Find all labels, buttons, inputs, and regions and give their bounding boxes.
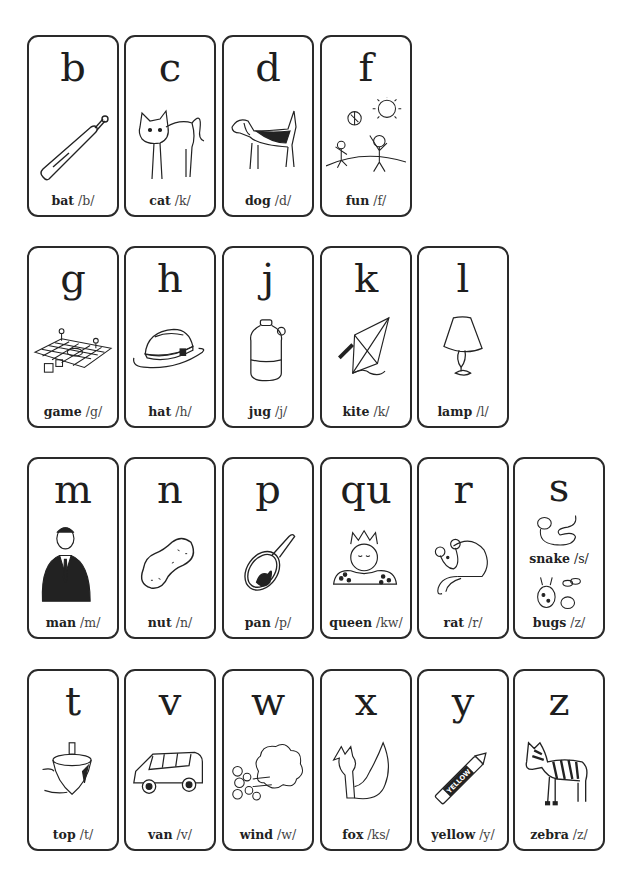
card-n[interactable]: n nut /n/ (124, 457, 216, 639)
card-letter: j (224, 252, 312, 304)
card-m[interactable]: m man /m/ (27, 457, 119, 639)
card-caption: kite /k/ (322, 404, 410, 419)
card-caption: nut /n/ (126, 615, 214, 630)
spinning-top-icon (33, 731, 113, 826)
card-j[interactable]: j jug /j/ (222, 246, 314, 428)
snake-icon (525, 513, 593, 551)
card-letter: h (126, 252, 214, 304)
card-t[interactable]: t top /t/ (27, 669, 119, 851)
card-f[interactable]: f fun /f/ (320, 35, 412, 217)
card-caption: dog /d/ (224, 193, 312, 208)
card-k[interactable]: k kite /k/ (320, 246, 412, 428)
card-z[interactable]: z zebra /z/ (513, 669, 605, 851)
card-y[interactable]: y YELLOW yellow /y/ (417, 669, 509, 851)
pan-icon (228, 519, 308, 614)
dog-icon (228, 97, 308, 192)
card-l[interactable]: l lamp /l/ (417, 246, 509, 428)
card-caption: man /m/ (29, 615, 117, 630)
card-letter: f (322, 41, 410, 93)
card-letter: g (29, 252, 117, 304)
card-v[interactable]: v van /v/ (124, 669, 216, 851)
card-caption: top /t/ (29, 827, 117, 842)
card-s[interactable]: s snake /s/ bugs /z/ (513, 457, 605, 639)
card-caption: cat /k/ (126, 193, 214, 208)
lamp-icon (423, 308, 503, 403)
card-d[interactable]: d dog /d/ (222, 35, 314, 217)
queen-icon (326, 519, 406, 614)
card-g[interactable]: g game /g/ (27, 246, 119, 428)
children-playing-icon (326, 97, 406, 192)
card-x[interactable]: x fox /ks/ (320, 669, 412, 851)
card-caption: fun /f/ (322, 193, 410, 208)
card-letter: n (126, 463, 214, 515)
card-letter: z (515, 675, 603, 727)
card-letter: y (419, 675, 507, 727)
card-w[interactable]: w wind /w/ (222, 669, 314, 851)
rat-icon (423, 519, 503, 614)
card-caption: bat /b/ (29, 193, 117, 208)
bat-icon (33, 97, 113, 192)
board-game-icon (33, 308, 113, 403)
bugs-icon (525, 573, 593, 613)
card-caption: jug /j/ (224, 404, 312, 419)
crayon-icon: YELLOW (423, 731, 503, 826)
kite-icon (326, 308, 406, 403)
card-caption: wind /w/ (224, 827, 312, 842)
peanut-icon (130, 519, 210, 614)
card-caption-bugs: bugs /z/ (515, 615, 603, 630)
zebra-icon (519, 731, 599, 826)
card-letter: k (322, 252, 410, 304)
card-b[interactable]: b bat /b/ (27, 35, 119, 217)
card-letter: v (126, 675, 214, 727)
jug-icon (228, 308, 308, 403)
card-letter: d (224, 41, 312, 93)
card-caption: van /v/ (126, 827, 214, 842)
card-letter: w (224, 675, 312, 727)
card-letter: t (29, 675, 117, 727)
card-caption: pan /p/ (224, 615, 312, 630)
card-letter: x (322, 675, 410, 727)
card-caption: rat /r/ (419, 615, 507, 630)
wind-icon (228, 731, 308, 826)
card-c[interactable]: c cat /k/ (124, 35, 216, 217)
card-letter: b (29, 41, 117, 93)
hat-icon (130, 308, 210, 403)
card-letter: r (419, 463, 507, 515)
card-caption-snake: snake /s/ (515, 551, 603, 566)
card-letter: p (224, 463, 312, 515)
card-letter: qu (322, 463, 410, 515)
card-caption: fox /ks/ (322, 827, 410, 842)
man-icon (33, 519, 113, 614)
card-p[interactable]: p pan /p/ (222, 457, 314, 639)
card-qu[interactable]: qu queen /kw/ (320, 457, 412, 639)
card-letter: c (126, 41, 214, 93)
card-letter: l (419, 252, 507, 304)
fox-icon (326, 731, 406, 826)
card-caption: zebra /z/ (515, 827, 603, 842)
card-caption: lamp /l/ (419, 404, 507, 419)
card-caption: hat /h/ (126, 404, 214, 419)
card-letter: s (515, 461, 603, 513)
van-icon (130, 731, 210, 826)
card-caption: queen /kw/ (322, 615, 410, 630)
card-r[interactable]: r rat /r/ (417, 457, 509, 639)
card-caption: game /g/ (29, 404, 117, 419)
card-caption: yellow /y/ (419, 827, 507, 842)
card-h[interactable]: h hat /h/ (124, 246, 216, 428)
cat-icon (130, 97, 210, 192)
card-letter: m (29, 463, 117, 515)
